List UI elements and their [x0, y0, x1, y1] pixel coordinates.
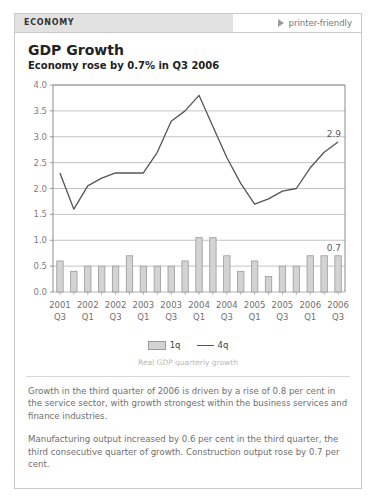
bar-1q — [85, 266, 91, 292]
x-axis-tick-label: 2005 — [272, 300, 294, 310]
x-axis-tick-label: 2005 — [244, 300, 266, 310]
y-axis-tick-label: 1.0 — [33, 235, 47, 245]
x-axis-tick-label: Q3 — [276, 312, 288, 322]
printer-friendly-link[interactable]: printer-friendly — [233, 14, 361, 32]
section-header-bar: ECONOMY printer-friendly — [15, 14, 361, 33]
bar-1q — [335, 256, 341, 292]
bar-1q — [168, 266, 174, 292]
body-paragraph-2: Manufacturing output increased by 0.6 pe… — [28, 433, 348, 470]
legend-item-1q: 1q — [148, 340, 181, 350]
bar-1q — [71, 271, 77, 292]
x-axis-tick-label: 2003 — [160, 300, 182, 310]
bar-1q — [154, 266, 160, 292]
bar-1q — [293, 266, 299, 292]
chart-legend: 1q 4q — [15, 337, 361, 353]
x-axis-tick-label: Q1 — [137, 312, 149, 322]
bar-1q — [307, 256, 313, 292]
x-axis-tick-label: Q3 — [332, 312, 344, 322]
bar-1q — [98, 266, 104, 292]
legend-label-1q: 1q — [170, 340, 181, 350]
page-title: GDP Growth — [28, 42, 361, 58]
y-axis-tick-label: 1.5 — [33, 209, 47, 219]
bar-1q — [196, 238, 202, 292]
bar-1q — [321, 256, 327, 292]
x-axis-tick-label: Q3 — [221, 312, 233, 322]
legend-item-4q: 4q — [197, 340, 229, 350]
x-axis-tick-label: Q1 — [304, 312, 316, 322]
screenshot-root: ECONOMY printer-friendly GDP Growth Econ… — [0, 0, 377, 502]
bar-1q — [265, 276, 271, 292]
legend-label-4q: 4q — [218, 340, 229, 350]
body-paragraph-1: Growth in the third quarter of 2006 is d… — [28, 385, 348, 422]
bar-1q — [238, 271, 244, 292]
x-axis-tick-label: 2002 — [105, 300, 127, 310]
bar-1q — [279, 266, 285, 292]
bar-1q — [182, 261, 188, 292]
x-axis-tick-label: Q1 — [249, 312, 261, 322]
chart-annotation-0-7: 0.7 — [327, 243, 341, 253]
chart-caption: Real GDP quarterly growth — [15, 358, 361, 367]
x-axis-tick-label: Q1 — [193, 312, 205, 322]
y-axis-tick-label: 3.5 — [33, 106, 47, 116]
section-label: ECONOMY — [24, 18, 74, 27]
bar-1q — [251, 261, 257, 292]
legend-line-swatch-icon — [197, 345, 214, 346]
x-axis-tick-label: 2004 — [188, 300, 210, 310]
chart-annotation-2-9: 2.9 — [327, 129, 342, 139]
bar-1q — [112, 266, 118, 292]
bar-1q — [57, 261, 63, 292]
y-axis-tick-label: 3.0 — [33, 132, 47, 142]
x-axis-tick-label: Q3 — [54, 312, 66, 322]
x-axis-tick-label: 2002 — [77, 300, 99, 310]
y-axis-tick-label: 0.0 — [33, 287, 47, 297]
content-divider — [26, 376, 350, 377]
y-axis-tick-label: 2.0 — [33, 184, 47, 194]
article-titles: GDP Growth Economy rose by 0.7% in Q3 20… — [15, 33, 361, 73]
y-axis-tick-label: 2.5 — [33, 158, 47, 168]
play-triangle-icon — [278, 19, 284, 27]
gdp-growth-chart: 0.00.51.01.52.02.53.03.54.02001Q32002Q12… — [15, 77, 361, 339]
y-axis-tick-label: 4.0 — [33, 80, 47, 90]
bar-1q — [224, 256, 230, 292]
x-axis-tick-label: Q3 — [110, 312, 122, 322]
bar-1q — [140, 266, 146, 292]
x-axis-tick-label: 2001 — [49, 300, 71, 310]
x-axis-tick-label: 2004 — [216, 300, 238, 310]
x-axis-tick-label: 2006 — [327, 300, 349, 310]
bar-1q — [210, 238, 216, 292]
page-subtitle: Economy rose by 0.7% in Q3 2006 — [28, 59, 361, 73]
x-axis-tick-label: 2003 — [133, 300, 155, 310]
printer-friendly-label: printer-friendly — [289, 18, 352, 28]
chart-canvas: 0.00.51.01.52.02.53.03.54.02001Q32002Q12… — [15, 77, 361, 339]
bar-1q — [126, 256, 132, 292]
y-axis-tick-label: 0.5 — [33, 261, 47, 271]
economy-article-card: ECONOMY printer-friendly GDP Growth Econ… — [14, 13, 362, 489]
x-axis-tick-label: Q3 — [165, 312, 177, 322]
legend-bar-swatch-icon — [148, 341, 166, 350]
x-axis-tick-label: Q1 — [82, 312, 94, 322]
x-axis-tick-label: 2006 — [299, 300, 321, 310]
line-4q — [60, 95, 338, 209]
